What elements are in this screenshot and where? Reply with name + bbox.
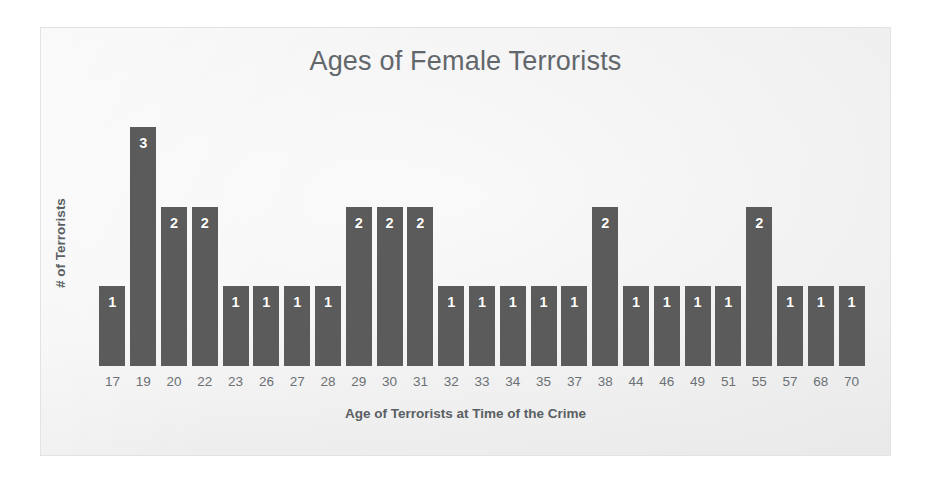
bar-37: 1	[561, 103, 587, 366]
plot-area: 1322111122211111211112111	[97, 103, 867, 366]
bar-value-label: 1	[469, 295, 495, 310]
x-tick-label-31: 31	[405, 372, 436, 392]
x-tick-label-37: 37	[559, 372, 590, 392]
bar-57: 1	[777, 103, 803, 366]
x-tick-label-44: 44	[621, 372, 652, 392]
bar-value-label: 1	[223, 295, 249, 310]
bar-33: 1	[469, 103, 495, 366]
bar-26: 1	[253, 103, 279, 366]
bar-rect: 1	[253, 286, 279, 366]
bar-value-label: 1	[839, 295, 865, 310]
bar-rect: 1	[777, 286, 803, 366]
bar-value-label: 1	[438, 295, 464, 310]
bar-rect: 1	[654, 286, 680, 366]
bar-rect: 1	[99, 286, 125, 366]
bar-value-label: 1	[531, 295, 557, 310]
bar-rect: 1	[284, 286, 310, 366]
bar-rect: 1	[315, 286, 341, 366]
x-tick-label-38: 38	[590, 372, 621, 392]
x-tick-label-30: 30	[374, 372, 405, 392]
x-tick-label-46: 46	[651, 372, 682, 392]
bar-rect: 2	[592, 207, 618, 366]
bar-value-label: 1	[623, 295, 649, 310]
x-tick-label-68: 68	[805, 372, 836, 392]
bar-68: 1	[808, 103, 834, 366]
bar-rect: 1	[839, 286, 865, 366]
x-tick-label-55: 55	[744, 372, 775, 392]
x-tick-label-20: 20	[159, 372, 190, 392]
bar-value-label: 2	[377, 216, 403, 231]
x-axis-title: Age of Terrorists at Time of the Crime	[41, 406, 890, 421]
bar-34: 1	[500, 103, 526, 366]
x-tick-label-33: 33	[467, 372, 498, 392]
x-tick-label-29: 29	[343, 372, 374, 392]
y-axis-title: # of Terrorists	[53, 153, 68, 333]
x-tick-label-51: 51	[713, 372, 744, 392]
x-tick-label-32: 32	[436, 372, 467, 392]
bar-value-label: 2	[746, 216, 772, 231]
bar-value-label: 1	[500, 295, 526, 310]
x-tick-label-34: 34	[497, 372, 528, 392]
bar-rect: 2	[407, 207, 433, 366]
bar-22: 2	[192, 103, 218, 366]
bar-27: 1	[284, 103, 310, 366]
bar-value-label: 2	[192, 216, 218, 231]
bar-44: 1	[623, 103, 649, 366]
bar-rect: 2	[377, 207, 403, 366]
x-tick-label-49: 49	[682, 372, 713, 392]
bar-value-label: 1	[777, 295, 803, 310]
bar-value-label: 2	[346, 216, 372, 231]
bar-value-label: 2	[592, 216, 618, 231]
bar-49: 1	[685, 103, 711, 366]
bar-rect: 2	[192, 207, 218, 366]
bar-value-label: 1	[284, 295, 310, 310]
x-tick-label-22: 22	[189, 372, 220, 392]
chart-title: Ages of Female Terrorists	[41, 46, 890, 77]
x-tick-label-35: 35	[528, 372, 559, 392]
bar-70: 1	[839, 103, 865, 366]
bar-rect: 1	[531, 286, 557, 366]
bar-rect: 1	[685, 286, 711, 366]
bar-19: 3	[130, 103, 156, 366]
bar-23: 1	[223, 103, 249, 366]
bar-28: 1	[315, 103, 341, 366]
bar-30: 2	[377, 103, 403, 366]
bar-value-label: 3	[130, 136, 156, 151]
bar-rect: 1	[438, 286, 464, 366]
bar-value-label: 1	[315, 295, 341, 310]
bar-38: 2	[592, 103, 618, 366]
x-tick-label-19: 19	[128, 372, 159, 392]
bar-rect: 1	[469, 286, 495, 366]
bar-rect: 2	[346, 207, 372, 366]
x-tick-label-26: 26	[251, 372, 282, 392]
bar-rect: 3	[130, 127, 156, 366]
x-tick-label-23: 23	[220, 372, 251, 392]
bar-55: 2	[746, 103, 772, 366]
bar-rect: 1	[561, 286, 587, 366]
bar-31: 2	[407, 103, 433, 366]
bar-rect: 2	[746, 207, 772, 366]
bar-20: 2	[161, 103, 187, 366]
x-tick-label-57: 57	[775, 372, 806, 392]
bar-51: 1	[715, 103, 741, 366]
bar-rect: 1	[623, 286, 649, 366]
bar-value-label: 1	[561, 295, 587, 310]
bar-value-label: 2	[407, 216, 433, 231]
x-tick-label-17: 17	[97, 372, 128, 392]
bar-rect: 1	[715, 286, 741, 366]
bar-35: 1	[531, 103, 557, 366]
bar-value-label: 1	[715, 295, 741, 310]
chart-figure: Ages of Female Terrorists # of Terrorist…	[40, 27, 891, 456]
bar-value-label: 1	[808, 295, 834, 310]
x-tick-label-70: 70	[836, 372, 867, 392]
bar-17: 1	[99, 103, 125, 366]
bar-rect: 1	[808, 286, 834, 366]
bar-value-label: 1	[685, 295, 711, 310]
x-tick-label-28: 28	[313, 372, 344, 392]
bar-rect: 1	[223, 286, 249, 366]
bar-value-label: 1	[253, 295, 279, 310]
bar-29: 2	[346, 103, 372, 366]
bar-value-label: 1	[99, 295, 125, 310]
x-tick-label-27: 27	[282, 372, 313, 392]
bar-rect: 2	[161, 207, 187, 366]
